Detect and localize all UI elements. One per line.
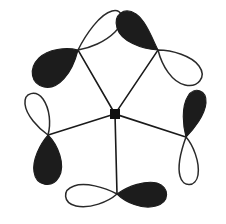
orbital-diagram-figure: Five-fold radial orbital diagram Central… — [0, 0, 226, 224]
central-atom — [111, 110, 120, 119]
orbital-diagram-canvas — [0, 0, 226, 224]
